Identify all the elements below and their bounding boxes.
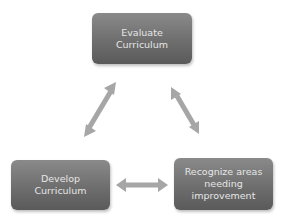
- node-label-line: needing: [185, 178, 263, 190]
- node-develop-curriculum: Develop Curriculum: [11, 160, 110, 210]
- node-label-line: Curriculum: [116, 39, 168, 51]
- node-label-line: Evaluate: [116, 27, 168, 39]
- node-evaluate-curriculum: Evaluate Curriculum: [92, 13, 192, 64]
- node-recognize-areas-needing-improvement: Recognize areas needing improvement: [174, 158, 273, 210]
- double-arrow-top-right: [171, 87, 199, 134]
- node-label-line: improvement: [185, 190, 263, 202]
- node-label-line: Develop: [34, 173, 86, 185]
- node-label-line: Recognize areas: [185, 166, 263, 178]
- node-label-line: Curriculum: [34, 185, 86, 197]
- double-arrow-left-right: [116, 178, 168, 192]
- double-arrow-top-left: [84, 82, 116, 137]
